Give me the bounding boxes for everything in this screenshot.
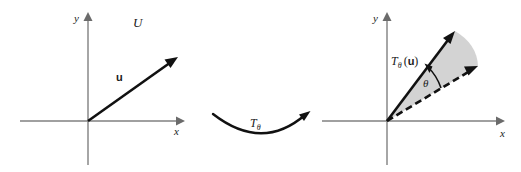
rotated-vector-label: Tθ(u) <box>391 54 418 70</box>
left-x-axis-label: x <box>173 125 179 137</box>
right-x-axis-arrowhead <box>496 117 505 126</box>
right-y-axis-label: y <box>372 12 378 24</box>
rotated-vector-label-subscript: θ <box>398 61 402 70</box>
rotation-diagram-figure: x y U u Tθ <box>0 0 521 172</box>
left-y-axis-label: y <box>73 12 79 24</box>
set-u-label: U <box>133 15 144 30</box>
left-vector-u-shaft <box>88 61 173 121</box>
left-panel-group: x y U u <box>20 12 185 165</box>
transformation-label: Tθ <box>250 116 261 132</box>
left-y-axis-arrowhead <box>84 12 93 21</box>
angle-theta-label: θ <box>423 77 429 89</box>
right-x-axis-label: x <box>499 127 505 139</box>
right-panel-group: x y Tθ(u) θ <box>322 12 505 165</box>
rotated-vector-label-vector: u <box>408 55 415 67</box>
transformation-label-subscript: θ <box>257 123 261 132</box>
diagram-canvas: x y U u Tθ <box>0 0 521 172</box>
rotated-vector-label-close-paren: ) <box>414 54 418 68</box>
left-vector-u-label: u <box>116 71 123 83</box>
right-y-axis-arrowhead <box>383 12 392 21</box>
middle-panel-group: Tθ <box>213 111 311 133</box>
rotation-sector-shading <box>387 31 478 121</box>
